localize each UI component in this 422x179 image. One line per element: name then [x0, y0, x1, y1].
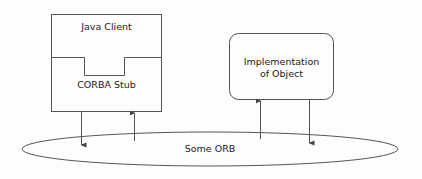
corba-stub-divider	[52, 58, 162, 76]
corba-diagram: Java Client CORBA Stub Implementation of…	[0, 0, 422, 179]
java-client-label: Java Client	[51, 21, 162, 33]
orb-label: Some ORB	[160, 143, 260, 155]
implementation-label-line1: Implementation	[229, 56, 334, 68]
implementation-label-line2: of Object	[229, 68, 334, 80]
corba-stub-label: CORBA Stub	[51, 79, 162, 91]
